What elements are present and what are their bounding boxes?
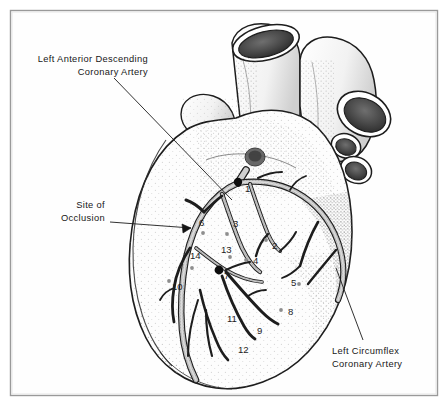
reference-dot-8: [279, 308, 283, 312]
occlusion-dot-1: [234, 178, 242, 186]
callout-label-line2-left-circumflex: Coronary Artery: [332, 359, 402, 369]
marker-12: 12: [238, 344, 249, 355]
marker-label-4: 4: [253, 255, 259, 266]
marker-label-10: 10: [172, 281, 183, 292]
callout-label-line2-left-anterior-descending: Coronary Artery: [78, 67, 148, 77]
callout-label-line1-left-anterior-descending: Left Anterior Descending: [38, 54, 148, 64]
marker-label-1: 1: [245, 183, 250, 194]
marker-label-7: 7: [224, 270, 229, 281]
reference-dot-10: [167, 279, 171, 283]
marker-11: 11: [227, 313, 237, 324]
marker-label-11: 11: [227, 313, 237, 324]
marker-label-8: 8: [288, 306, 293, 317]
marker-9: 9: [257, 325, 262, 336]
marker-label-2: 2: [272, 240, 277, 251]
heart-anatomy-figure: 1234567891011121314 Left Anterior Descen…: [0, 0, 448, 416]
marker-label-6: 6: [199, 217, 204, 228]
callout-label-line1-site-of-occlusion: Site of: [76, 200, 105, 210]
marker-label-9: 9: [257, 325, 262, 336]
marker-label-12: 12: [238, 344, 249, 355]
callout-label-line1-left-circumflex: Left Circumflex: [332, 346, 399, 356]
reference-dot-2: [264, 238, 268, 242]
reference-dot-4: [244, 258, 248, 262]
reference-dot-6: [201, 231, 205, 235]
marker-label-3: 3: [233, 218, 238, 229]
occlusion-dot-7: [215, 266, 224, 275]
marker-label-13: 13: [221, 244, 232, 255]
reference-dot-3: [225, 232, 229, 236]
reference-dot-14: [190, 266, 194, 270]
reference-dot-13: [228, 255, 232, 259]
reference-dot-5: [297, 282, 301, 286]
marker-label-5: 5: [291, 277, 296, 288]
callout-label-line2-site-of-occlusion: Occlusion: [61, 213, 105, 223]
marker-label-14: 14: [190, 250, 201, 261]
